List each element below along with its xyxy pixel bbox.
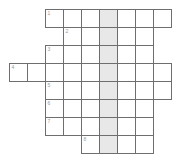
crossword-cell[interactable] [63, 117, 82, 136]
crossword-cell[interactable] [45, 63, 64, 82]
crossword-grid: 12345678 [0, 0, 185, 165]
crossword-cell[interactable] [81, 117, 100, 136]
crossword-cell[interactable]: 1 [45, 9, 64, 28]
crossword-cell[interactable] [99, 9, 118, 28]
crossword-cell[interactable] [135, 81, 154, 100]
crossword-cell[interactable] [81, 81, 100, 100]
crossword-cell[interactable]: 6 [45, 99, 64, 118]
crossword-cell[interactable] [81, 99, 100, 118]
crossword-cell[interactable] [81, 63, 100, 82]
crossword-cell[interactable] [63, 63, 82, 82]
crossword-cell[interactable] [135, 135, 154, 154]
crossword-cell[interactable] [63, 99, 82, 118]
crossword-cell[interactable] [153, 81, 172, 100]
crossword-cell[interactable] [99, 63, 118, 82]
crossword-clue-number: 2 [66, 28, 69, 34]
crossword-cell[interactable] [135, 99, 154, 118]
crossword-cell[interactable] [135, 117, 154, 136]
crossword-cell[interactable] [99, 135, 118, 154]
crossword-cell[interactable] [153, 9, 172, 28]
crossword-cell[interactable] [99, 117, 118, 136]
crossword-cell[interactable] [63, 81, 82, 100]
crossword-clue-number: 5 [48, 82, 51, 88]
crossword-cell[interactable] [99, 27, 118, 46]
crossword-cell[interactable]: 7 [45, 117, 64, 136]
crossword-cell[interactable] [63, 45, 82, 64]
crossword-clue-number: 3 [48, 46, 51, 52]
crossword-cell[interactable]: 2 [63, 27, 82, 46]
crossword-cell[interactable] [117, 99, 136, 118]
crossword-cell[interactable] [117, 63, 136, 82]
crossword-cell[interactable] [63, 9, 82, 28]
crossword-clue-number: 7 [48, 118, 51, 124]
crossword-cell[interactable] [99, 45, 118, 64]
crossword-cell[interactable] [135, 45, 154, 64]
crossword-cell[interactable] [153, 63, 172, 82]
crossword-cell[interactable] [135, 9, 154, 28]
crossword-cell[interactable] [117, 45, 136, 64]
crossword-cell[interactable] [27, 63, 46, 82]
crossword-cell[interactable] [99, 81, 118, 100]
crossword-cell[interactable] [99, 99, 118, 118]
crossword-cell[interactable] [117, 9, 136, 28]
crossword-cell[interactable] [117, 135, 136, 154]
crossword-cell[interactable] [117, 27, 136, 46]
crossword-cell[interactable] [135, 63, 154, 82]
crossword-cell[interactable]: 3 [45, 45, 64, 64]
crossword-cell[interactable] [81, 45, 100, 64]
crossword-cell[interactable] [117, 81, 136, 100]
crossword-clue-number: 6 [48, 100, 51, 106]
crossword-clue-number: 4 [12, 64, 15, 70]
crossword-clue-number: 1 [48, 10, 51, 16]
crossword-cell[interactable]: 5 [45, 81, 64, 100]
crossword-cell[interactable]: 8 [81, 135, 100, 154]
crossword-cell[interactable] [81, 9, 100, 28]
crossword-clue-number: 8 [84, 136, 87, 142]
crossword-cell[interactable] [81, 27, 100, 46]
crossword-cell[interactable] [117, 117, 136, 136]
crossword-cell[interactable] [135, 27, 154, 46]
crossword-cell[interactable]: 4 [9, 63, 28, 82]
